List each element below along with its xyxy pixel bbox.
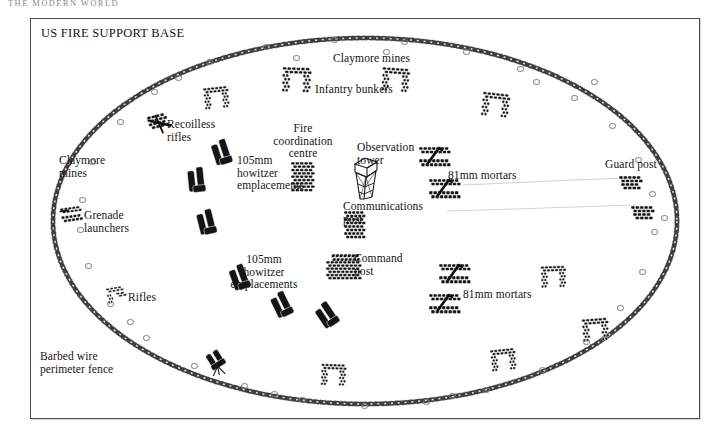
symbol-infantry-bunker — [203, 86, 229, 110]
label-command-post: Command post — [354, 252, 403, 277]
claymore-mine-marker — [241, 383, 248, 389]
symbol-grenade-launcher — [60, 206, 82, 225]
claymore-mine-marker — [661, 215, 668, 221]
symbol-rifle — [106, 286, 127, 305]
claymore-mine-marker — [651, 229, 658, 235]
claymore-mine-marker — [77, 227, 84, 233]
symbol-infantry-bunker — [481, 92, 510, 119]
claymore-mine-marker — [206, 59, 213, 65]
claymore-mine-marker — [649, 191, 656, 197]
claymore-mine-marker — [127, 319, 134, 325]
label-grenade-launchers: Grenade launchers — [84, 209, 129, 234]
label-105mm-howitzer-emplacements-upper: 105mm howitzer emplacements — [237, 154, 304, 192]
claymore-mine-marker — [293, 55, 300, 61]
claymore-mine-marker — [609, 123, 616, 129]
symbol-81mm-mortar — [429, 294, 459, 314]
label-observation-tower: Observation tower — [357, 141, 414, 166]
symbol-anti-aircraft-gun — [204, 347, 232, 377]
label-infantry-bunkers: Infantry bunkers — [315, 83, 393, 96]
claymore-mine-marker — [331, 37, 338, 43]
claymore-mine-marker — [449, 393, 456, 399]
label-105mm-howitzer-emplacements-lower: 105mm howitzer emplacements — [231, 253, 298, 291]
claymore-mine-marker — [117, 119, 124, 125]
claymore-mine-marker — [79, 197, 86, 203]
label-claymore-mines-top: Claymore mines — [333, 52, 410, 65]
claymore-mine-marker — [517, 66, 524, 72]
symbol-infantry-bunker — [582, 318, 609, 343]
claymore-mine-marker — [401, 39, 408, 45]
claymore-mine-marker — [299, 397, 306, 403]
symbol-81mm-mortar — [439, 264, 469, 284]
claymore-mine-marker — [617, 305, 624, 311]
label-rifles: Rifles — [128, 291, 156, 304]
claymore-mine-marker — [423, 399, 430, 405]
symbol-infantry-bunker — [282, 67, 310, 93]
label-81mm-mortars-upper: 81mm mortars — [448, 169, 517, 182]
claymore-mine-marker — [175, 75, 182, 81]
claymore-mine-marker — [571, 95, 578, 101]
symbol-105mm-howitzer — [316, 301, 342, 327]
label-barbed-wire-perimeter-fence: Barbed wire perimeter fence — [40, 350, 113, 375]
label-claymore-mines-left: Claymore mines — [59, 154, 105, 179]
claymore-mine-marker — [263, 44, 270, 50]
illustration-plate: US FIRE SUPPORT BASE — [30, 18, 700, 419]
claymore-mine-marker — [143, 335, 150, 341]
label-guard-post: Guard post — [605, 158, 657, 171]
claymore-mine-marker — [539, 367, 546, 373]
claymore-mine-marker — [639, 269, 646, 275]
claymore-mine-marker — [463, 49, 470, 55]
claymore-mine-marker — [483, 387, 490, 393]
claymore-mine-marker — [533, 79, 540, 85]
page-root: The Modern World US FIRE SUPPORT BASE — [0, 0, 713, 437]
claymore-mine-marker — [85, 263, 92, 269]
claymore-mine-marker — [191, 363, 198, 369]
symbol-81mm-mortar — [429, 179, 459, 199]
label-81mm-mortars-lower: 81mm mortars — [463, 288, 532, 301]
symbol-guard-post — [619, 176, 641, 190]
symbol-infantry-bunker — [321, 364, 346, 387]
symbol-infantry-bunker — [490, 348, 516, 372]
running-head: The Modern World — [8, 0, 119, 10]
claymore-mine-marker — [361, 403, 368, 409]
label-fire-coordination-centre: Fire coordination centre — [273, 122, 332, 160]
claymore-mine-marker — [591, 79, 598, 85]
claymore-mine-marker — [151, 89, 158, 95]
label-communications-post: Communications post — [343, 200, 423, 225]
symbol-105mm-howitzer — [269, 289, 298, 318]
claymore-mine-marker — [271, 391, 278, 397]
symbol-infantry-bunker — [541, 266, 566, 289]
base-diagram: Claymore minesInfantry bunkersRecoilless… — [31, 19, 699, 418]
symbol-81mm-mortar — [419, 147, 449, 167]
symbol-guard-post — [631, 206, 653, 220]
label-recoilless-rifles: Recoilless rifles — [167, 118, 215, 143]
access-road-lower — [447, 205, 635, 211]
